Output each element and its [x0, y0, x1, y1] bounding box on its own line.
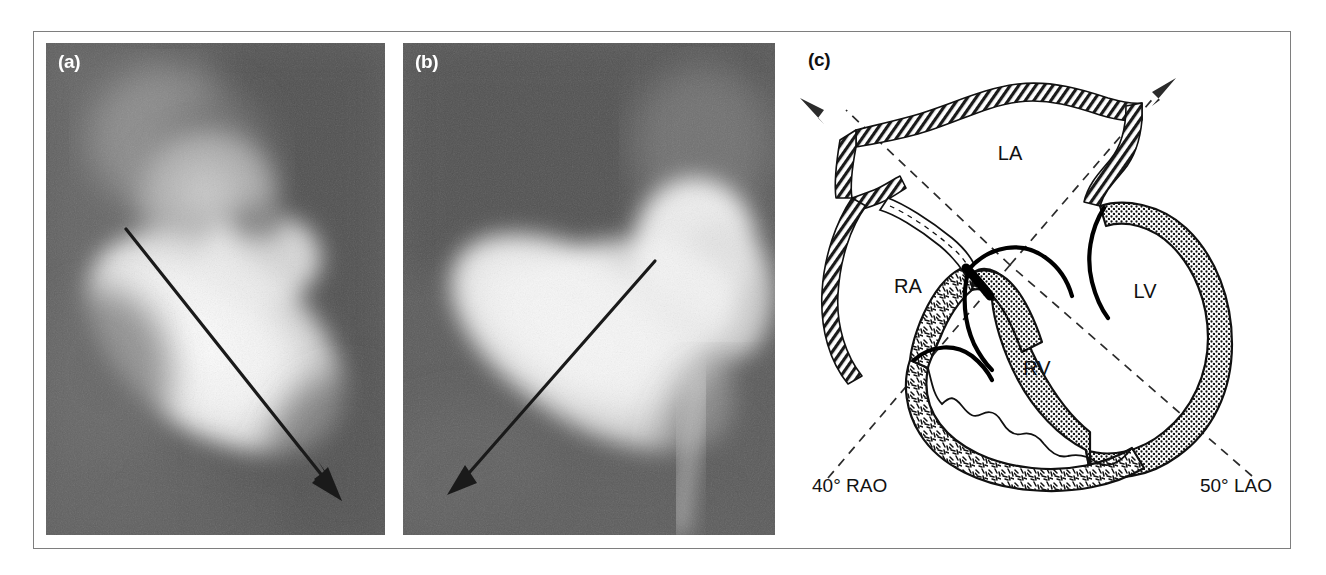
chamber-label-rv: RV — [1023, 357, 1051, 379]
panel-c-diagram: LA RA LV RV 40° RAO 50° LAO (c) — [790, 33, 1289, 547]
panel-a-image — [46, 43, 385, 535]
projection-label-rao: 40° RAO — [812, 475, 887, 496]
chamber-label-lv: LV — [1134, 280, 1158, 302]
panel-a-angiogram: (a) — [46, 43, 385, 535]
chamber-label-ra: RA — [894, 275, 922, 297]
projection-label-lao: 50° LAO — [1200, 475, 1272, 496]
panel-b-angiogram: (b) — [403, 43, 775, 535]
figure-root: (a) — [0, 0, 1326, 575]
cardiac-chamber-diagram: LA RA LV RV 40° RAO 50° LAO — [790, 33, 1289, 547]
panel-b-image — [403, 43, 775, 535]
chamber-label-la: LA — [998, 142, 1023, 164]
